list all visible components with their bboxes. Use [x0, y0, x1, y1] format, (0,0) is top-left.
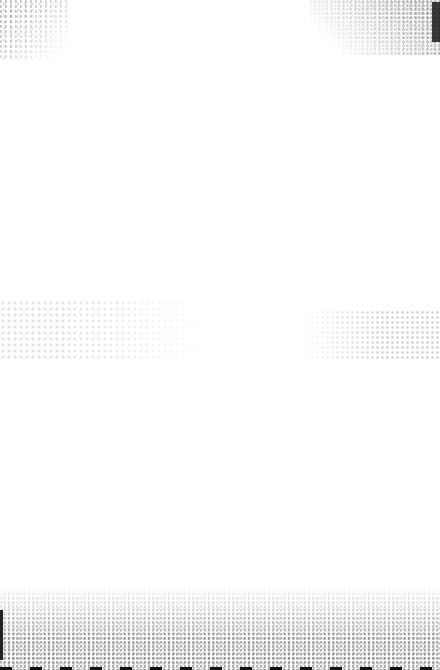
scan-noise-middle-left [0, 300, 210, 360]
blank-scanned-page [0, 0, 440, 670]
scan-noise-top-left [0, 0, 70, 60]
scan-noise-bottom [0, 585, 440, 670]
scan-edge-mark [432, 2, 440, 42]
scan-noise-middle-right [300, 310, 440, 360]
scan-edge-left [0, 610, 3, 660]
scan-noise-top-right [310, 0, 440, 55]
